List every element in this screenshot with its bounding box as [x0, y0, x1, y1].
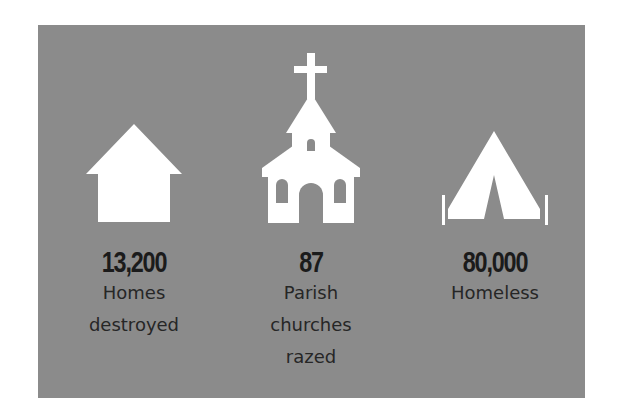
stat-churches-razed: 87 Parish churches razed — [221, 246, 401, 374]
church-icon — [260, 53, 362, 225]
stat-label: Parish — [221, 276, 401, 310]
stat-label: destroyed — [44, 308, 224, 342]
stat-label: churches — [221, 308, 401, 342]
stat-label: Homes — [44, 276, 224, 310]
stat-value: 13,200 — [64, 246, 204, 278]
stat-label: razed — [221, 340, 401, 374]
house-icon — [86, 124, 182, 224]
stat-homeless: 80,000 Homeless — [405, 246, 585, 310]
infographic-panel: 13,200 Homes destroyed 87 Parish churche… — [38, 25, 585, 398]
stat-homes-destroyed: 13,200 Homes destroyed — [44, 246, 224, 342]
stat-value: 80,000 — [425, 246, 565, 278]
stat-label: Homeless — [405, 276, 585, 310]
tent-icon — [442, 131, 548, 227]
stat-value: 87 — [241, 246, 381, 278]
